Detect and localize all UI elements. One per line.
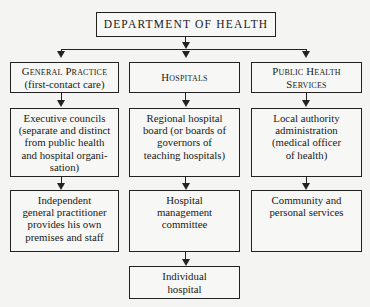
hospitals-label: Hospitals bbox=[161, 71, 207, 83]
text-line: Individual bbox=[162, 270, 206, 282]
text-line: administration bbox=[275, 124, 337, 136]
text-line: and hospital organi- bbox=[21, 149, 107, 161]
text-line: committee bbox=[162, 218, 208, 230]
text-line: (separate and distinct bbox=[19, 124, 111, 136]
connector-left-drop bbox=[61, 49, 62, 54]
hospitals-box: Hospitals bbox=[129, 62, 240, 93]
independent-gp-box: Independent general practitioner provide… bbox=[10, 190, 119, 252]
text-line: teaching hospitals) bbox=[144, 149, 225, 161]
text-line: Local authority bbox=[273, 112, 339, 124]
text-line: Hospital bbox=[166, 194, 203, 206]
text-line: of health) bbox=[286, 149, 328, 161]
text-line: hospital bbox=[167, 283, 201, 295]
executive-councils-box: Executive councils (separate and distinc… bbox=[10, 108, 119, 177]
text-line: governors of bbox=[157, 136, 212, 148]
public-health-box: Public Health Services bbox=[251, 62, 362, 93]
arrow-down-icon bbox=[182, 51, 190, 58]
arrow-down-icon bbox=[182, 100, 190, 107]
arrow-down-icon bbox=[182, 42, 190, 49]
general-practice-box: General Practice (first-contact care) bbox=[10, 62, 119, 93]
public-health-label: Public Health bbox=[272, 65, 341, 77]
text-line: personal services bbox=[269, 206, 343, 218]
text-line: Community and bbox=[272, 194, 342, 206]
department-of-health-box: DEPARTMENT OF HEALTH bbox=[96, 12, 276, 37]
text-line: Independent bbox=[38, 194, 91, 206]
individual-hospital-box: Individual hospital bbox=[129, 266, 240, 299]
arrow-down-icon bbox=[57, 100, 65, 107]
text-line: premises and staff bbox=[25, 231, 103, 243]
hospital-management-committee-box: Hospital management committee bbox=[129, 190, 240, 252]
text-line: board (or boards of bbox=[143, 124, 226, 136]
text-line: from public health bbox=[25, 136, 105, 148]
arrow-down-icon bbox=[182, 259, 190, 266]
connector-right-drop bbox=[306, 49, 307, 54]
text-line: (medical officer bbox=[272, 136, 341, 148]
arrow-down-icon bbox=[302, 100, 310, 107]
regional-hospital-board-box: Regional hospital board (or boards of go… bbox=[129, 108, 240, 177]
arrow-down-icon bbox=[302, 183, 310, 190]
text-line: general practitioner bbox=[22, 206, 106, 218]
community-services-box: Community and personal services bbox=[251, 190, 362, 252]
text-line: Regional hospital bbox=[147, 112, 223, 124]
text-line: sation) bbox=[50, 161, 79, 173]
department-title: DEPARTMENT OF HEALTH bbox=[104, 18, 269, 30]
local-authority-box: Local authority administration (medical … bbox=[251, 108, 362, 177]
general-practice-label: General Practice bbox=[22, 65, 107, 77]
public-health-sub: Services bbox=[286, 78, 326, 90]
arrow-down-icon bbox=[57, 183, 65, 190]
general-practice-sub: (first-contact care) bbox=[24, 78, 104, 90]
text-line: provides his own bbox=[28, 218, 102, 230]
text-line: Executive councils bbox=[24, 112, 106, 124]
arrow-down-icon bbox=[182, 183, 190, 190]
text-line: management bbox=[157, 206, 212, 218]
